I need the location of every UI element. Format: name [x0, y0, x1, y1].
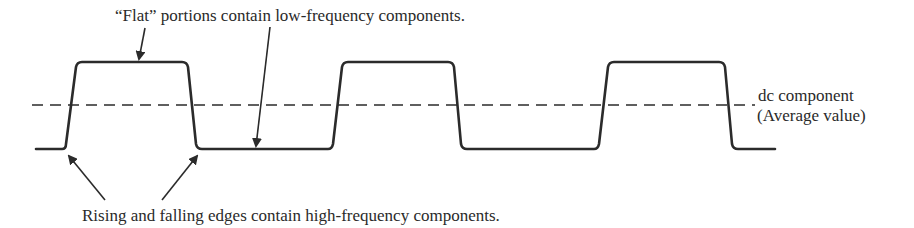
rising-edge-arrow-icon — [69, 156, 105, 200]
flat-bottom-arrow-icon — [256, 27, 270, 146]
average-value-label: (Average value) — [757, 106, 866, 125]
edges-label: Rising and falling edges contain high-fr… — [82, 206, 500, 225]
pulse-train-diagram: “Flat” portions contain low-frequency co… — [0, 0, 914, 228]
flat-portions-label: “Flat” portions contain low-frequency co… — [115, 6, 465, 25]
flat-top-arrow-icon — [139, 28, 145, 59]
dc-component-label: dc component — [758, 86, 854, 105]
falling-edge-arrow-icon — [162, 156, 197, 200]
